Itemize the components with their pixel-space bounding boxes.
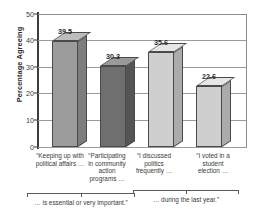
y-tick-label-40: 40 xyxy=(26,35,34,44)
bar-4-value-label: 22.6 xyxy=(202,72,216,81)
bar-3[interactable]: 35.6 xyxy=(148,52,174,147)
bracket-right-note: … during the last year.” xyxy=(133,196,239,203)
bar-3-value-label: 35.6 xyxy=(154,38,168,47)
y-tick-label-30: 30 xyxy=(26,62,34,71)
bar-1-front xyxy=(52,41,78,147)
tickmark-30 xyxy=(34,66,38,67)
tickmark-40 xyxy=(34,39,38,40)
chart-figure: Percentage Agreeing 0 10 20 30 40 50 39.… xyxy=(0,0,255,212)
category-label-3: “I discussed politics frequently … xyxy=(124,152,184,175)
bar-2-value-label: 30.3 xyxy=(106,52,120,61)
category-label-4-line-2: student xyxy=(182,160,244,168)
tickmark-50 xyxy=(34,14,38,15)
y-tick-label-50: 50 xyxy=(26,10,34,19)
bar-4-side xyxy=(222,80,231,147)
gridline-0 xyxy=(38,147,247,148)
bracket-left xyxy=(27,193,135,198)
y-tick-label-10: 10 xyxy=(26,116,34,125)
bar-4-front xyxy=(196,86,222,147)
bar-1-side xyxy=(78,35,87,147)
category-label-3-line-1: “I discussed xyxy=(124,152,184,160)
bar-1-value-label: 39.5 xyxy=(58,27,72,36)
bracket-right-cap-start xyxy=(133,190,134,194)
tickmark-0 xyxy=(34,147,38,148)
category-label-4-line-1: “I voted in a xyxy=(182,152,244,160)
bracket-right-cap-mid xyxy=(186,190,187,194)
category-label-4-line-3: election … xyxy=(182,167,244,175)
y-tick-label-20: 20 xyxy=(26,89,34,98)
bracket-right-cap-end xyxy=(238,190,239,194)
y-tick-label-0: 0 xyxy=(30,143,34,152)
bar-2-front xyxy=(100,66,126,147)
bar-3-front xyxy=(148,52,174,147)
y-axis-line xyxy=(37,12,39,149)
bar-4[interactable]: 22.6 xyxy=(196,86,222,147)
tickmark-20 xyxy=(34,93,38,94)
tickmark-10 xyxy=(34,120,38,121)
category-label-4: “I voted in a student election … xyxy=(182,152,244,175)
bracket-left-note: … is essential or very important.” xyxy=(27,199,135,206)
category-label-2-line-4: programs … xyxy=(78,175,136,183)
bar-1[interactable]: 39.5 xyxy=(52,41,78,147)
category-label-3-line-2: politics xyxy=(124,160,184,168)
category-label-3-line-3: frequently … xyxy=(124,167,184,175)
bracket-left-cap-start xyxy=(27,193,28,197)
plot-frame-top xyxy=(38,14,247,15)
bracket-right xyxy=(133,190,239,195)
plot-frame-right xyxy=(246,14,247,148)
bar-2[interactable]: 30.3 xyxy=(100,66,126,147)
plot-area: 0 10 20 30 40 50 39.5 30.3 35.6 xyxy=(38,14,247,148)
bar-2-side xyxy=(126,60,135,147)
bar-3-side xyxy=(174,46,183,147)
bracket-left-cap-mid xyxy=(81,193,82,197)
y-axis-title: Percentage Agreeing xyxy=(15,15,24,115)
